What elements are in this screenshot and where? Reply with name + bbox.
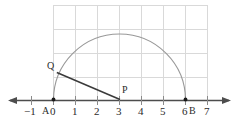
segment-qp [57,73,120,100]
tick-label-0: 0 [50,106,56,117]
point-marker-a [52,98,56,102]
geometry-figure [0,0,239,122]
point-label-p: P [122,85,128,95]
diagram-canvas: −1 0 1 2 3 4 5 6 7 A B P Q [0,0,239,122]
axis-arrow-left [8,97,17,104]
point-label-a: A [42,106,49,116]
tick-label-2: 2 [94,106,100,117]
point-marker-b [184,98,188,102]
point-label-b: B [189,106,196,116]
tick-label-1: 1 [72,106,78,117]
tick-label-4: 4 [138,106,144,117]
tick-label-7: 7 [204,106,210,117]
tick-label-3: 3 [116,106,122,117]
axis-group [8,96,231,105]
tick-label-5: 5 [160,106,166,117]
tick-label-6: 6 [182,106,188,117]
point-label-q: Q [47,61,54,71]
axis-arrow-right [222,97,231,104]
tick-label--1: −1 [24,106,36,117]
